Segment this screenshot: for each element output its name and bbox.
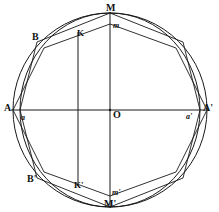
label-a-prime: a' [186, 113, 192, 121]
label-m: m [113, 22, 119, 30]
center-point-marker [109, 109, 111, 111]
label-m-prime: m' [112, 189, 120, 197]
label-A-prime: A' [203, 103, 213, 113]
label-M: M [106, 3, 115, 13]
label-B-prime: B' [27, 174, 36, 184]
figure-container: M m B K A a O a' A' B' K' m' M' [0, 0, 219, 212]
label-O: O [113, 110, 121, 120]
label-a: a [21, 114, 25, 122]
label-K: K [77, 29, 84, 38]
label-A: A [4, 103, 11, 113]
label-B: B [32, 32, 39, 42]
label-M-prime: M' [104, 199, 116, 209]
label-K-prime: K' [74, 181, 84, 190]
